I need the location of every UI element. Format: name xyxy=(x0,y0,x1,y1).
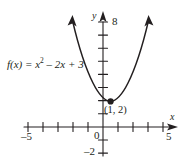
x-tick-label-5: 5 xyxy=(166,131,172,142)
quadratic-graph-figure: y 8 x 5 –5 0 –2 (1, 2) f(x) = x2 – 2x + … xyxy=(0,0,181,164)
curve-arrow-right xyxy=(144,15,153,27)
function-equation-prefix: f(x) = x xyxy=(7,58,40,70)
y-axis-label: y xyxy=(92,11,96,21)
vertex-coordinate-label: (1, 2) xyxy=(104,105,127,116)
function-equation-label: f(x) = x2 – 2x + 3 xyxy=(7,59,84,70)
curve-arrow-left xyxy=(68,15,77,27)
function-equation-suffix: – 2x + 3 xyxy=(44,58,84,70)
x-axis-label: x xyxy=(170,112,174,122)
y-tick-label-8: 8 xyxy=(112,16,118,27)
origin-label: 0 xyxy=(94,130,100,141)
y-axis-arrow xyxy=(99,11,106,22)
x-tick-label-negative-5: –5 xyxy=(21,131,32,142)
y-tick-label-negative-2: –2 xyxy=(84,146,95,157)
